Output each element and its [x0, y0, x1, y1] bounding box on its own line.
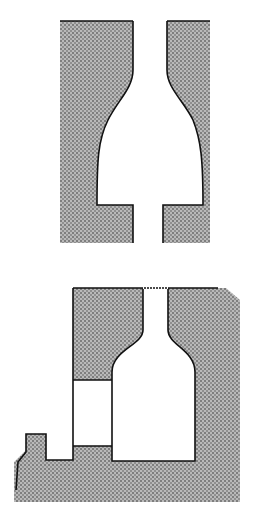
- top-mold-right-half: [163, 21, 210, 243]
- diagram-canvas: [0, 0, 254, 527]
- top-mold-left-half: [60, 21, 133, 243]
- top-mold-figure: [60, 21, 210, 243]
- bottom-mold-body: [73, 288, 143, 380]
- bottom-mold-figure: [14, 288, 240, 502]
